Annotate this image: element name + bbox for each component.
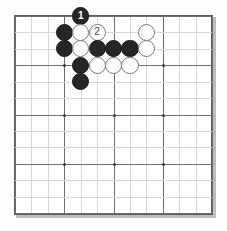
move-number-label: 1 [73,8,88,23]
move-number-label: 2 [90,25,105,40]
stone-black[interactable] [56,24,73,41]
stone-white-move-2[interactable]: 2 [89,24,106,41]
stone-white[interactable] [72,40,89,57]
stone-black[interactable] [72,73,89,90]
stone-black[interactable] [56,40,73,57]
stone-white[interactable] [138,24,155,41]
stone-black[interactable] [121,40,138,57]
stone-white[interactable] [121,57,138,74]
stone-white[interactable] [89,57,106,74]
stone-black[interactable] [72,57,89,74]
go-diagram-figure: 12 [0,0,227,231]
stone-black-move-1[interactable]: 1 [72,7,89,24]
stone-white[interactable] [138,40,155,57]
stone-white[interactable] [72,24,89,41]
stone-black[interactable] [105,40,122,57]
stone-layer[interactable]: 12 [0,0,227,231]
stone-white[interactable] [105,57,122,74]
stone-black[interactable] [89,40,106,57]
